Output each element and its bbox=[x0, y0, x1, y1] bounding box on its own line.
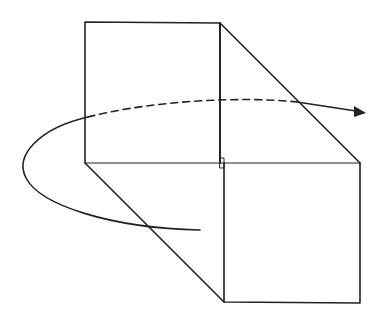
diagonal-bottom bbox=[85, 163, 224, 302]
rotation-arc-back bbox=[88, 100, 297, 117]
rotation-arc-front bbox=[23, 117, 200, 230]
lower-square bbox=[224, 163, 360, 303]
diagonal-top bbox=[220, 23, 360, 163]
arrow-head-icon bbox=[354, 106, 366, 117]
upper-square bbox=[85, 22, 220, 163]
rotation-diagram bbox=[0, 0, 384, 326]
